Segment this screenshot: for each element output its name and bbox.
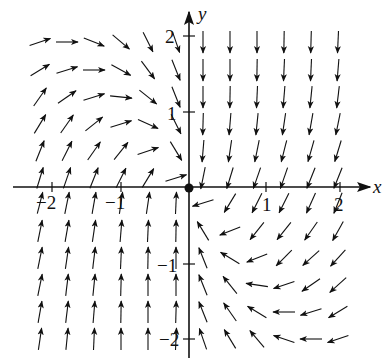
field-arrow — [257, 86, 258, 108]
field-arrow — [274, 335, 295, 342]
field-arrow — [301, 309, 322, 315]
field-arrow — [93, 274, 95, 296]
field-arrow — [166, 175, 187, 181]
field-arrow — [334, 168, 342, 188]
field-arrow — [309, 113, 313, 135]
field-arrow — [311, 31, 312, 53]
field-arrow — [66, 301, 69, 323]
field-arrow — [337, 59, 339, 81]
field-arrow — [62, 141, 72, 161]
vector-field-figure: x y −2 −1 1 2 2 1 −1 −2 — [0, 0, 389, 364]
field-arrow — [93, 247, 96, 269]
field-arrow — [199, 329, 206, 350]
x-axis-label: x — [373, 177, 381, 196]
field-arrow — [94, 328, 95, 350]
field-arrow — [193, 200, 214, 206]
y-tick-label-1: 1 — [167, 104, 177, 123]
field-arrow — [283, 86, 285, 108]
field-arrow — [282, 113, 285, 135]
field-arrow — [61, 115, 74, 133]
field-arrow — [247, 254, 267, 262]
field-arrow — [280, 168, 287, 189]
field-arrow — [248, 306, 267, 317]
field-arrow — [172, 60, 180, 80]
field-arrow — [65, 247, 68, 269]
field-arrow — [284, 59, 285, 81]
field-arrow — [93, 301, 95, 323]
field-arrow — [202, 140, 204, 162]
field-arrow — [92, 220, 95, 242]
y-tick-label-minus2: −2 — [159, 330, 179, 349]
field-arrow — [250, 222, 264, 239]
field-arrow — [176, 301, 177, 323]
field-arrow — [34, 115, 45, 134]
field-arrow — [58, 91, 76, 104]
field-arrow — [337, 86, 340, 108]
field-arrow — [65, 192, 69, 214]
field-arrow — [246, 283, 268, 286]
field-arrow — [203, 113, 204, 135]
field-arrow — [329, 306, 348, 317]
field-arrow — [281, 140, 286, 161]
field-arrow — [90, 168, 98, 188]
field-arrow — [335, 141, 341, 162]
field-arrow — [256, 113, 258, 135]
y-tick-label-2: 2 — [165, 27, 175, 46]
field-arrow — [176, 192, 177, 214]
field-arrow — [328, 335, 349, 342]
y-tick-label-minus1: −1 — [157, 256, 177, 275]
field-arrow — [34, 88, 47, 106]
field-arrow — [139, 90, 156, 104]
field-arrow — [38, 247, 42, 269]
field-arrow — [310, 86, 312, 108]
field-arrow — [197, 222, 208, 241]
field-arrow — [138, 120, 158, 129]
field-arrow — [307, 193, 316, 213]
field-arrow — [65, 220, 69, 242]
field-arrow — [199, 275, 207, 295]
field-arrow — [277, 222, 291, 239]
x-tick-label-minus1: −1 — [105, 193, 125, 212]
field-arrow — [38, 220, 42, 242]
field-arrow — [228, 140, 231, 162]
field-arrow — [114, 142, 128, 159]
field-arrow — [84, 38, 104, 46]
field-arrow — [311, 59, 312, 81]
x-tick-label-minus2: −2 — [36, 193, 56, 212]
x-tick-label-2: 2 — [334, 195, 344, 214]
field-arrow — [111, 121, 132, 127]
field-arrow — [38, 301, 42, 323]
field-arrow — [223, 276, 237, 293]
field-arrow — [143, 32, 153, 52]
origin-point — [185, 184, 194, 193]
field-arrow — [38, 328, 41, 350]
field-arrow — [302, 279, 320, 292]
field-arrow — [66, 274, 69, 296]
field-arrow — [92, 192, 96, 214]
field-arrow — [199, 248, 207, 268]
field-arrow — [121, 247, 122, 269]
field-arrow — [148, 220, 149, 242]
field-arrow — [141, 61, 154, 79]
field-arrow — [199, 302, 207, 322]
field-arrow — [31, 64, 50, 75]
field-arrow — [121, 274, 122, 296]
field-arrow — [57, 67, 78, 73]
field-arrow — [338, 31, 339, 53]
field-arrow — [333, 221, 344, 240]
field-arrow — [220, 227, 240, 235]
field-arrow — [66, 328, 68, 350]
field-arrow — [85, 117, 102, 131]
field-arrow — [305, 222, 318, 240]
field-arrow — [224, 330, 235, 349]
field-arrow — [250, 331, 264, 348]
field-arrow — [279, 193, 289, 213]
field-arrow — [110, 96, 132, 98]
field-arrow — [120, 220, 122, 242]
field-arrow — [63, 168, 70, 189]
field-arrow — [252, 193, 262, 213]
field-arrow — [229, 113, 231, 135]
x-tick-label-1: 1 — [262, 195, 272, 214]
field-arrow — [138, 147, 159, 154]
field-arrow — [170, 142, 181, 161]
